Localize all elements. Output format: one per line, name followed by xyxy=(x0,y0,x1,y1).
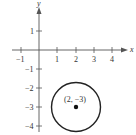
x-axis-label: x xyxy=(129,45,134,54)
y-tick-label-neg3: −3 xyxy=(25,103,34,112)
x-tick-label-neg1: −1 xyxy=(16,55,25,64)
center-point-label: (2, −3) xyxy=(64,95,86,104)
x-tick-label-1: 1 xyxy=(55,55,59,64)
y-axis-label: y xyxy=(36,0,41,8)
x-tick-label-2: 2 xyxy=(74,55,78,64)
y-tick-label-1: 1 xyxy=(30,27,34,36)
y-tick-label-neg2: −2 xyxy=(25,84,34,93)
x-tick-label-3: 3 xyxy=(92,55,96,64)
center-point xyxy=(74,105,78,109)
y-tick-label-neg1: −1 xyxy=(25,65,34,74)
coordinate-plane: x y −1 1 2 3 4 1 −1 −2 −3 −4 xyxy=(0,0,136,135)
circle-graph-figure: x y −1 1 2 3 4 1 −1 −2 −3 −4 xyxy=(0,0,136,135)
y-axis-arrow-icon xyxy=(37,7,42,14)
y-tick-label-neg4: −4 xyxy=(25,122,34,131)
x-axis-arrow-icon xyxy=(121,48,128,53)
x-tick-label-4: 4 xyxy=(110,55,114,64)
